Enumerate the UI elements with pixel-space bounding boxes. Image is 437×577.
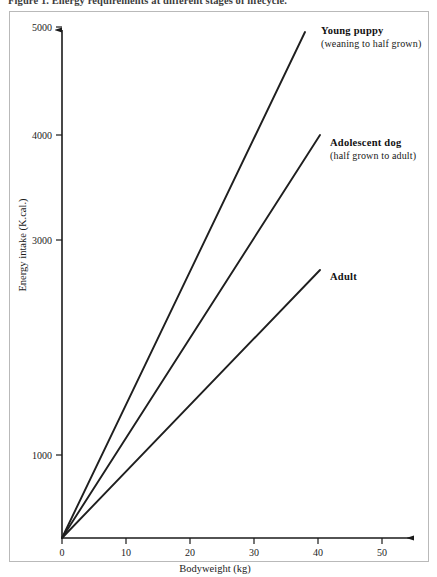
x-tick-label-30: 30	[249, 547, 259, 558]
y-tick-label-3000: 3000	[32, 235, 52, 246]
axis-group	[62, 30, 414, 538]
x-tick-labels: 0 10 20 30 40 50	[60, 547, 388, 558]
x-axis-title: Bodyweight (kg)	[179, 563, 251, 575]
series-line-adolescent-dog	[62, 135, 320, 538]
y-tick-marks	[56, 27, 62, 455]
series-line-adult	[62, 270, 320, 538]
y-axis-title: Energy intake (K.cal.)	[17, 198, 29, 292]
line-chart: 5000 4000 3000 1000 0 10 20 30 40 50 Bod…	[0, 0, 437, 577]
series-label-young-puppy-sub: (weaning to half grown)	[321, 38, 421, 50]
x-tick-marks	[62, 538, 382, 544]
series-label-adolescent-dog-main: Adolescent dog	[330, 137, 402, 148]
x-tick-label-50: 50	[377, 547, 387, 558]
x-tick-label-40: 40	[313, 547, 323, 558]
x-tick-label-0: 0	[60, 547, 65, 558]
series-label-adolescent-dog-sub: (half grown to adult)	[330, 150, 416, 162]
series-annotation-young-puppy: Young puppy (weaning to half grown)	[321, 25, 421, 50]
series-label-young-puppy-main: Young puppy	[321, 25, 384, 36]
series-line-young-puppy	[62, 32, 305, 538]
x-tick-label-20: 20	[185, 547, 195, 558]
x-tick-label-10: 10	[121, 547, 131, 558]
y-tick-labels: 5000 4000 3000 1000	[32, 22, 52, 461]
series-annotation-adult: Adult	[330, 271, 357, 282]
series-label-adult-main: Adult	[330, 271, 357, 282]
series-group	[62, 32, 320, 538]
y-tick-label-1000: 1000	[32, 450, 52, 461]
y-tick-label-4000: 4000	[32, 130, 52, 141]
series-annotation-adolescent-dog: Adolescent dog (half grown to adult)	[330, 137, 416, 162]
y-tick-label-5000: 5000	[32, 22, 52, 33]
